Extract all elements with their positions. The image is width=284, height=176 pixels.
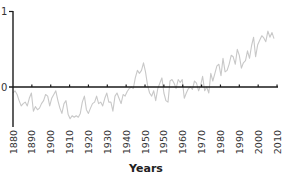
x-tick-label: 2000 — [253, 130, 264, 154]
x-tick-label: 1960 — [177, 130, 188, 154]
y-tick-label-0: 0 — [1, 82, 7, 93]
x-axis-title: Years — [128, 162, 163, 175]
x-tick-label: 1920 — [83, 130, 94, 154]
x-tick-label: 1890 — [26, 130, 37, 154]
x-tick-label: 1990 — [234, 130, 245, 154]
x-tick-labels: 1880189019001910192019301940195019501960… — [8, 130, 283, 154]
x-tick-label: 1880 — [8, 130, 19, 154]
line-chart: 1 0 188018901900191019201930194019501950… — [0, 0, 284, 176]
x-tick-label: 2010 — [272, 130, 283, 154]
x-tick-label: 1930 — [102, 130, 113, 154]
x-tick-label: 1940 — [121, 130, 132, 154]
data-line — [13, 31, 274, 119]
x-tick-label: 1950 — [140, 130, 151, 154]
x-tick-label: 1900 — [45, 130, 56, 154]
x-tick-label: 1980 — [215, 130, 226, 154]
x-tick-label: 1970 — [196, 130, 207, 154]
axes: 1 0 188018901900191019201930194019501950… — [1, 6, 283, 175]
plot-area — [13, 31, 274, 119]
y-tick-label-1: 1 — [1, 6, 7, 17]
x-tick-label: 1950 — [158, 130, 169, 154]
x-tick-label: 1910 — [64, 130, 75, 154]
